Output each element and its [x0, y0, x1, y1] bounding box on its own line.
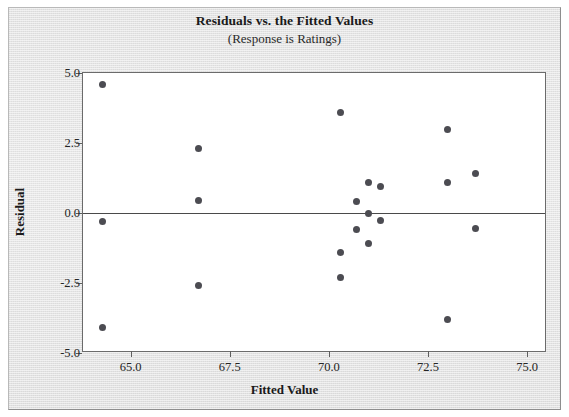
data-point	[99, 81, 106, 88]
data-point	[377, 183, 384, 190]
x-axis-tick-label: 70.0	[318, 360, 340, 375]
x-axis-tick	[329, 351, 330, 357]
y-axis-tick-label: 5.0	[64, 66, 80, 81]
data-point	[444, 316, 451, 323]
x-axis-tick-label: 67.5	[219, 360, 241, 375]
y-axis-tick-label: 2.5	[64, 136, 80, 151]
data-point	[377, 217, 384, 224]
x-axis-tick	[230, 351, 231, 357]
data-point	[365, 179, 372, 186]
data-point	[444, 126, 451, 133]
x-axis-tick	[428, 351, 429, 357]
residual-plot-figure: Residuals vs. the Fitted Values (Respons…	[0, 0, 569, 417]
data-point	[444, 179, 451, 186]
x-axis-tick-label: 75.0	[516, 360, 538, 375]
data-point	[99, 218, 106, 225]
data-point	[337, 249, 344, 256]
plot-area: 5.02.50.0-2.5-5.0 65.067.570.072.575.0	[82, 72, 546, 352]
data-point	[195, 197, 202, 204]
x-axis-tick-label: 65.0	[120, 360, 142, 375]
data-point	[195, 145, 202, 152]
data-point	[99, 324, 106, 331]
data-point	[472, 170, 479, 177]
data-point	[195, 282, 202, 289]
x-axis-tick	[131, 351, 132, 357]
x-axis-label: Fitted Value	[0, 382, 569, 398]
y-axis-label: Residual	[12, 188, 28, 236]
data-point	[337, 274, 344, 281]
data-point	[337, 109, 344, 116]
y-axis-tick-label: -2.5	[60, 276, 80, 291]
y-axis-tick-label: -5.0	[60, 346, 80, 361]
data-point	[353, 226, 360, 233]
data-point	[472, 225, 479, 232]
data-point	[365, 210, 372, 217]
y-axis-tick-label: 0.0	[64, 206, 80, 221]
data-point	[365, 240, 372, 247]
data-point	[353, 198, 360, 205]
x-axis-tick-label: 72.5	[417, 360, 439, 375]
x-axis-tick	[527, 351, 528, 357]
zero-reference-line	[83, 213, 545, 214]
